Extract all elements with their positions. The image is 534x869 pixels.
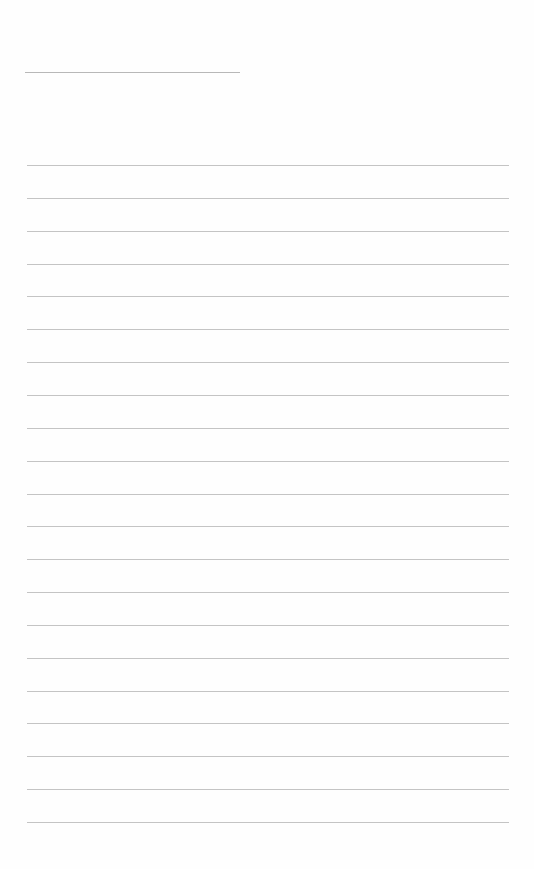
ruled-line [27, 264, 509, 265]
ruled-line [27, 329, 509, 330]
header-name-line [25, 72, 240, 73]
ruled-line [27, 691, 509, 692]
ruled-line [27, 526, 509, 527]
ruled-line [27, 789, 509, 790]
ruled-line [27, 494, 509, 495]
ruled-line [27, 592, 509, 593]
ruled-line [27, 296, 509, 297]
ruled-line [27, 362, 509, 363]
ruled-line [27, 165, 509, 166]
ruled-line [27, 723, 509, 724]
ruled-line [27, 231, 509, 232]
ruled-line [27, 198, 509, 199]
ruled-line [27, 658, 509, 659]
ruled-line [27, 395, 509, 396]
ruled-line [27, 428, 509, 429]
lined-paper-page [0, 0, 534, 869]
ruled-line [27, 461, 509, 462]
ruled-line [27, 756, 509, 757]
ruled-line [27, 559, 509, 560]
ruled-line [27, 625, 509, 626]
ruled-line [27, 822, 509, 823]
